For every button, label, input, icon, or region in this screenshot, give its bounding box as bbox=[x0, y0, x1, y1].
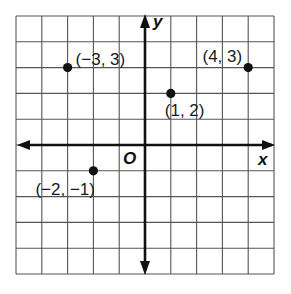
y-axis-down-arrow-icon bbox=[140, 261, 150, 275]
coordinate-plane: (−3, 3)(4, 3)(1, 2)(−2, −1) x y O bbox=[0, 0, 291, 294]
origin-label: O bbox=[123, 149, 136, 168]
data-point bbox=[89, 166, 98, 175]
data-point bbox=[244, 63, 253, 72]
x-axis-right-arrow-icon bbox=[262, 140, 275, 150]
y-axis-label: y bbox=[152, 12, 164, 31]
point-label: (−2, −1) bbox=[35, 180, 95, 199]
point-label: (−3, 3) bbox=[76, 50, 126, 69]
point-label: (1, 2) bbox=[165, 101, 205, 120]
data-point bbox=[166, 89, 175, 98]
x-axis-left-arrow-icon bbox=[17, 140, 30, 150]
data-point bbox=[63, 63, 72, 72]
x-axis-label: x bbox=[257, 150, 269, 169]
point-label: (4, 3) bbox=[203, 47, 243, 66]
